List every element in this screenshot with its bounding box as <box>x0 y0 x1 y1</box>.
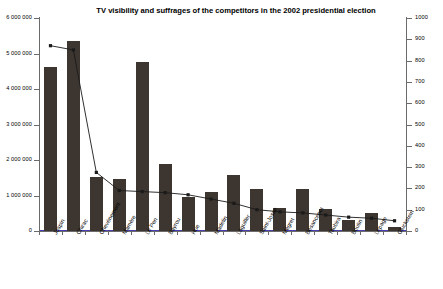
left-tick-label: 0 <box>29 228 32 234</box>
chart-figure: TV visibility and suffrages of the compe… <box>0 0 443 289</box>
line-marker <box>324 213 327 216</box>
right-tick <box>406 188 412 189</box>
right-tick-label: 200 <box>415 185 425 191</box>
line-marker <box>232 202 235 205</box>
left-tick-label: 5 000 000 <box>6 51 32 57</box>
right-tick <box>406 61 412 62</box>
right-tick-label: 300 <box>415 164 425 170</box>
right-tick-label: 900 <box>415 36 425 42</box>
right-tick <box>406 125 412 126</box>
right-tick-label: 500 <box>415 122 425 128</box>
right-tick-label: 700 <box>415 79 425 85</box>
right-tick-label: 100 <box>415 207 425 213</box>
line-marker <box>49 44 52 47</box>
line-marker <box>95 171 98 174</box>
right-tick <box>406 103 412 104</box>
line-marker <box>164 191 167 194</box>
suffrages-line <box>50 46 394 221</box>
right-tick <box>406 146 412 147</box>
right-tick <box>406 18 412 19</box>
line-marker <box>141 190 144 193</box>
line-marker <box>301 211 304 214</box>
line-marker <box>118 189 121 192</box>
right-tick-label: 600 <box>415 100 425 106</box>
left-tick-label: 4 000 000 <box>6 86 32 92</box>
line-series <box>39 18 406 231</box>
left-tick-label: 2 000 000 <box>6 157 32 163</box>
x-axis-labels: JospinChiracChevènementMamèreLe PenBayro… <box>39 233 406 289</box>
left-tick-label: 6 000 000 <box>6 15 32 21</box>
left-tick-label: 1 000 000 <box>6 193 32 199</box>
right-tick <box>406 82 412 83</box>
line-marker <box>347 216 350 219</box>
right-tick-label: 1000 <box>415 15 428 21</box>
line-marker <box>370 217 373 220</box>
line-marker <box>209 197 212 200</box>
right-tick-label: 400 <box>415 143 425 149</box>
x-tick <box>406 231 407 235</box>
right-tick-label: 0 <box>415 228 418 234</box>
line-marker <box>186 193 189 196</box>
line-marker <box>278 210 281 213</box>
right-tick <box>406 167 412 168</box>
line-marker <box>393 219 396 222</box>
chart-title: TV visibility and suffrages of the compe… <box>96 6 376 16</box>
right-tick-label: 800 <box>415 58 425 64</box>
line-marker <box>255 208 258 211</box>
left-tick-label: 3 000 000 <box>6 122 32 128</box>
line-marker <box>72 48 75 51</box>
right-tick <box>406 39 412 40</box>
